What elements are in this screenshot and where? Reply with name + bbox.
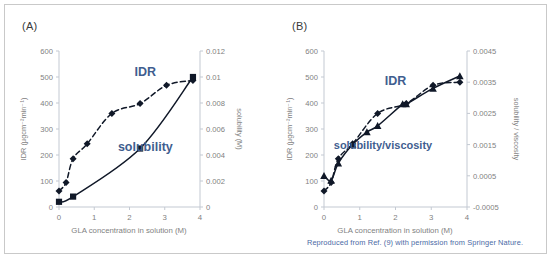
series-annotation: solubility/viscosity [334, 139, 433, 151]
series-solubility-viscosity [320, 72, 463, 184]
y-tick-label: 300 [40, 125, 53, 134]
y-tick-label: 500 [305, 73, 318, 82]
y-axis-label: IDR (μgcm⁻²min⁻¹) [19, 98, 28, 161]
y-tick-label: 0 [314, 203, 318, 212]
y-tick-label: 200 [40, 151, 53, 160]
x-axis-label: GLA concentration in solution (M) [337, 226, 453, 235]
y2-tick-label: 0.01 [206, 73, 221, 82]
x-axis-label: GLA concentration in solution (M) [71, 226, 187, 235]
x-tick-label: 2 [127, 213, 131, 222]
figure-caption: Reproduced from Ref. (9) with permission… [290, 238, 540, 247]
x-tick-label: 3 [429, 213, 433, 222]
x-tick-label: 0 [57, 213, 62, 222]
y2-axis-label: solubility (M) [235, 108, 244, 149]
y2-tick-label: 0.012 [206, 47, 225, 56]
y-tick-label: 400 [40, 99, 53, 108]
data-point [320, 172, 328, 179]
y-tick-label: 500 [40, 73, 53, 82]
x-tick-label: 1 [358, 213, 362, 222]
y2-tick-label: 0.008 [206, 99, 225, 108]
data-point [456, 72, 464, 79]
y-tick-label: 600 [40, 47, 53, 56]
y2-tick-label: 0.006 [206, 125, 225, 134]
data-point [70, 155, 77, 162]
x-tick-label: 4 [198, 213, 203, 222]
y-tick-label: 100 [40, 177, 53, 186]
y-tick-label: 200 [305, 151, 318, 160]
y-tick-label: 600 [305, 47, 318, 56]
y-axis-label: IDR (μgcm⁻²min⁻¹) [285, 98, 294, 161]
y-tick-label: 300 [305, 125, 318, 134]
series-idr [321, 79, 464, 195]
series-annotation: IDR [385, 74, 407, 88]
y2-tick-label: 0.0035 [473, 78, 496, 87]
y2-tick-label: 0.0045 [473, 47, 496, 56]
y2-tick-label: 0.0005 [473, 172, 496, 181]
data-point [163, 82, 170, 89]
data-point [56, 199, 62, 205]
data-point [190, 74, 196, 80]
data-point [335, 160, 343, 167]
panel-a: (A) 010020030040050060000.0020.0040.0060… [4, 4, 276, 254]
data-point [70, 194, 76, 200]
panel-b-plot: 0100200300400500600-0.00050.00050.00150.… [276, 4, 547, 254]
x-tick-label: 3 [163, 213, 167, 222]
series-annotation: IDR [135, 65, 157, 79]
x-tick-label: 0 [322, 213, 327, 222]
x-tick-label: 1 [92, 213, 96, 222]
x-tick-label: 2 [393, 213, 397, 222]
figure-root: (A) 010020030040050060000.0020.0040.0060… [0, 0, 551, 268]
data-point [137, 100, 144, 107]
y-tick-label: 0 [49, 203, 53, 212]
y-tick-label: 400 [305, 99, 318, 108]
data-point [456, 79, 463, 86]
x-tick-label: 4 [465, 213, 470, 222]
y2-tick-label: 0 [206, 203, 210, 212]
y2-tick-label: -0.0005 [473, 203, 499, 212]
y2-tick-label: 0.0025 [473, 109, 496, 118]
y2-tick-label: 0.004 [206, 151, 225, 160]
series-line [324, 82, 460, 191]
y2-axis-label: solubility / viscosity [512, 98, 521, 161]
data-point [63, 179, 70, 186]
series-line [59, 80, 193, 191]
y2-tick-label: 0.002 [206, 177, 225, 186]
series-idr [56, 77, 197, 195]
series-annotation: solubility [118, 140, 173, 154]
panel-a-plot: 010020030040050060000.0020.0040.0060.008… [4, 4, 276, 254]
panel-b: (B) 0100200300400500600-0.00050.00050.00… [276, 4, 547, 254]
y2-tick-label: 0.0015 [473, 141, 496, 150]
series-line [324, 76, 460, 181]
y-tick-label: 100 [305, 177, 318, 186]
